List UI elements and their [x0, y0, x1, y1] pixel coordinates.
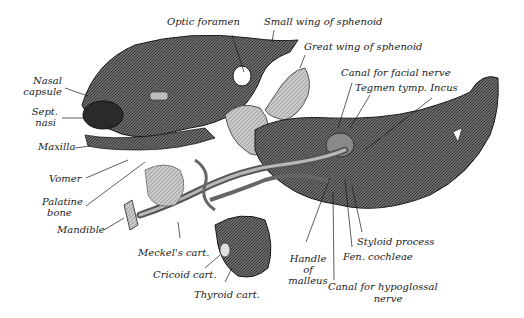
label-canal-hypoglossal-1: Canal for hypoglossal [328, 282, 438, 292]
label-palatine-1: Palatine [42, 197, 83, 207]
label-thyroid-cartilage: Thyroid cart. [194, 290, 260, 300]
label-styloid-process: Styloid process [357, 237, 435, 247]
label-sept-nasi-1: Sept. [26, 107, 58, 117]
label-canal-hypoglossal-2: nerve [328, 294, 448, 304]
label-nasal-capsule-1: Nasal [26, 76, 62, 86]
label-nasal-capsule-2: capsule [20, 87, 62, 97]
chondrocranium-illustration [0, 0, 524, 318]
label-optic-foramen: Optic foramen [167, 17, 240, 27]
label-fen-cochleae: Fen. cochleae [343, 252, 413, 262]
label-canal-facial-nerve: Canal for facial nerve [341, 68, 451, 78]
label-handle-of-malleus-2: of [286, 265, 330, 275]
label-small-wing-of-sphenoid: Small wing of sphenoid [264, 17, 383, 27]
label-palatine-2: bone [47, 208, 72, 218]
label-meckels-cartilage: Meckel's cart. [138, 248, 210, 258]
label-mandible: Mandible [57, 225, 105, 235]
label-maxilla: Maxilla [38, 142, 75, 152]
mandible-shape [124, 200, 138, 230]
label-great-wing-of-sphenoid: Great wing of sphenoid [304, 42, 422, 52]
label-vomer: Vomer [49, 174, 82, 184]
label-handle-of-malleus-3: malleus [286, 276, 330, 286]
label-handle-of-malleus-1: Handle [286, 254, 330, 264]
label-cricoid-cartilage: Cricoid cart. [153, 270, 217, 280]
anatomical-figure: Optic foramen Small wing of sphenoid Gre… [0, 0, 524, 318]
label-sept-nasi-2: nasi [26, 118, 56, 128]
label-tegmen-tymp-incus: Tegmen tymp. Incus [355, 83, 458, 93]
great-wing-shape [265, 68, 309, 120]
